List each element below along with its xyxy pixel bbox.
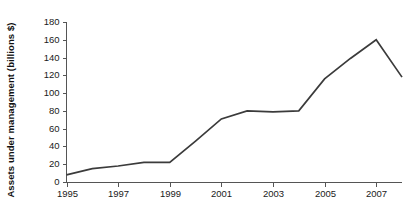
x-axis-tick-marks [68,183,377,187]
x-axis-tick-label: 2007 [366,188,387,199]
y-axis-tick-label: 120 [44,69,60,80]
y-axis-tick-labels: 020406080100120140160180 [44,16,60,187]
line-chart: Assets under management (billions $) 020… [0,0,414,220]
chart-plot-area: 020406080100120140160180 199519971999200… [0,0,414,220]
y-axis-tick-label: 20 [49,158,60,169]
x-axis-group: 1995199719992001200320052007 [57,183,402,200]
x-axis-tick-label: 1997 [108,188,129,199]
x-axis-tick-label: 2003 [263,188,284,199]
x-axis-tick-label: 2001 [211,188,232,199]
x-axis-tick-label: 1995 [57,188,78,199]
y-axis-tick-label: 100 [44,87,60,98]
y-axis-group: 020406080100120140160180 [44,16,67,187]
x-axis-tick-labels: 1995199719992001200320052007 [57,188,387,199]
y-axis-tick-marks [63,23,67,183]
y-axis-tick-label: 80 [49,105,60,116]
x-axis-tick-label: 1999 [160,188,181,199]
x-axis-tick-label: 2005 [315,188,336,199]
data-line-assets-under-management [67,40,403,175]
y-axis-tick-label: 180 [44,16,60,27]
y-axis-tick-label: 0 [54,176,59,187]
y-axis-tick-label: 140 [44,52,60,63]
y-axis-tick-label: 40 [49,140,60,151]
data-series-group [67,40,403,175]
y-axis-tick-label: 160 [44,34,60,45]
y-axis-tick-label: 60 [49,123,60,134]
